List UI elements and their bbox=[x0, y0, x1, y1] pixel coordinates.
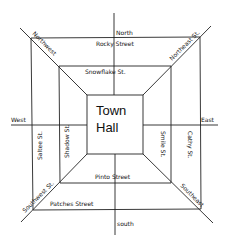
southwest-diagonal bbox=[21, 154, 87, 222]
cathy-street-label: Cathy St. bbox=[186, 131, 194, 159]
north-label: North bbox=[116, 29, 133, 36]
south-label: south bbox=[117, 220, 134, 227]
smile-street-label: Smile St. bbox=[160, 131, 167, 158]
patches-street-line bbox=[33, 209, 201, 210]
southeast-label: Southeast bbox=[179, 182, 206, 209]
pinto-street-label: Pinto Street bbox=[95, 173, 131, 180]
patches-street-label: Patches Street bbox=[50, 200, 94, 207]
rocky-street-label: Rocky Street bbox=[96, 40, 134, 48]
hand-drawn-street-map: Town Hall North south West East Northwes… bbox=[0, 0, 229, 242]
town-hall-label-line2: Hall bbox=[96, 120, 119, 135]
southwest-label: Southwest St. bbox=[21, 179, 55, 213]
west-label: West bbox=[11, 116, 26, 123]
saltee-street-line bbox=[31, 38, 33, 210]
southeast-diagonal bbox=[143, 154, 213, 223]
snowflake-street-label: Snowflake St. bbox=[85, 68, 126, 75]
shadow-street-line bbox=[59, 66, 60, 183]
shadow-street-label: Shadow St. bbox=[63, 124, 70, 158]
cathy-street-line bbox=[200, 37, 201, 209]
east-label: East bbox=[201, 116, 215, 123]
northeast-diagonal bbox=[143, 26, 211, 95]
town-hall-label-line1: Town bbox=[96, 103, 126, 118]
northeast-label: Northeast St. bbox=[168, 29, 201, 62]
rocky-street-line bbox=[31, 37, 200, 38]
saltee-street-label: Saltee St. bbox=[36, 131, 43, 160]
